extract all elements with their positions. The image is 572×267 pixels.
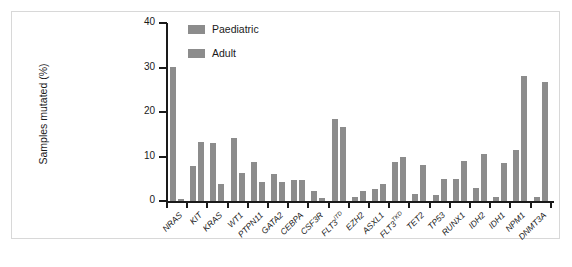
bar-paediatric-kit: [190, 166, 196, 201]
bar-adult-asxl1: [380, 184, 386, 201]
bar-group: [392, 23, 407, 201]
bar-paediatric-npm1: [513, 150, 519, 201]
bar-group: [311, 23, 326, 201]
y-axis-title: Samples mutated (%): [37, 39, 49, 189]
legend-item: Paediatric: [188, 20, 259, 38]
bar-group: [372, 23, 387, 201]
bar-paediatric-dnmt3a: [534, 197, 540, 201]
y-axis-tick-label-wrap: 10: [113, 151, 155, 161]
bar-paediatric-ezh2: [352, 197, 358, 201]
bar-paediatric-idh1: [493, 197, 499, 201]
y-axis-tick-label: 30: [115, 62, 155, 72]
y-axis-tick-label: 10: [115, 151, 155, 161]
bar-paediatric-kras: [210, 143, 216, 201]
bar-group: [433, 23, 448, 201]
bar-adult-gata2: [279, 182, 285, 201]
x-axis-tick: [550, 201, 552, 208]
bar-adult-ezh2: [360, 191, 366, 201]
bar-adult-ptpn11: [259, 182, 265, 201]
y-axis-tick: [159, 156, 167, 158]
bar-paediatric-runx1: [453, 179, 459, 201]
x-axis-tick: [186, 201, 188, 208]
bar-adult-dnmt3a: [542, 82, 548, 201]
bar-adult-kras: [218, 184, 224, 201]
x-axis-tick: [348, 201, 350, 208]
bar-adult-idh2: [481, 154, 487, 201]
x-axis-tick: [408, 201, 410, 208]
bar-paediatric-cebpa: [291, 180, 297, 201]
bar-paediatric-wt1: [231, 138, 237, 201]
bar-paediatric-flt3tkd: [392, 162, 398, 201]
bar-group: [170, 23, 185, 201]
x-axis-tick: [530, 201, 532, 208]
bar-adult-nras: [178, 199, 184, 201]
legend-swatch-icon: [188, 49, 205, 58]
y-axis-tick-label: 40: [115, 17, 155, 27]
bar-adult-idh1: [501, 163, 507, 201]
bar-paediatric-asxl1: [372, 189, 378, 201]
y-axis-tick-label-wrap: 0: [113, 195, 155, 205]
bar-group: [473, 23, 488, 201]
x-axis-line: [166, 201, 554, 203]
x-axis-tick: [449, 201, 451, 208]
bar-group: [291, 23, 306, 201]
x-axis-tick: [166, 201, 168, 208]
y-axis-tick-label: 0: [115, 195, 155, 205]
bar-paediatric-ptpn11: [251, 162, 257, 201]
x-axis-tick: [469, 201, 471, 208]
bar-adult-wt1: [239, 173, 245, 201]
figure-container: Samples mutated (%) 010203040 NRASKITKRA…: [0, 0, 572, 267]
bar-group: [513, 23, 528, 201]
bar-adult-npm1: [521, 76, 527, 201]
x-axis-tick: [368, 201, 370, 208]
bar-adult-tp53: [441, 179, 447, 201]
bar-adult-csf3r: [319, 198, 325, 201]
bar-paediatric-flt3itd: [332, 119, 338, 201]
y-axis-tick: [159, 67, 167, 69]
chart-legend: PaediatricAdult: [188, 20, 259, 68]
bar-group: [352, 23, 367, 201]
x-axis-tick: [429, 201, 431, 208]
legend-label: Adult: [212, 47, 236, 59]
bar-adult-flt3tkd: [400, 157, 406, 202]
y-axis-tick-label-wrap: 20: [113, 106, 155, 116]
bar-chart-plot: Samples mutated (%) 010203040 NRASKITKRA…: [0, 0, 572, 267]
bar-adult-runx1: [461, 161, 467, 201]
bar-paediatric-idh2: [473, 188, 479, 201]
x-axis-tick: [388, 201, 390, 208]
bar-paediatric-csf3r: [311, 191, 317, 201]
bar-group: [493, 23, 508, 201]
bar-paediatric-tp53: [433, 195, 439, 201]
bar-paediatric-nras: [170, 67, 176, 201]
x-axis-tick: [206, 201, 208, 208]
x-axis-tick: [287, 201, 289, 208]
x-axis-tick: [489, 201, 491, 208]
bar-paediatric-gata2: [271, 174, 277, 201]
legend-label: Paediatric: [212, 23, 259, 35]
y-axis-tick: [159, 22, 167, 24]
bar-adult-cebpa: [299, 180, 305, 201]
bar-group: [332, 23, 347, 201]
y-axis-tick-label-wrap: 40: [113, 17, 155, 27]
x-axis-tick: [509, 201, 511, 208]
legend-item: Adult: [188, 44, 259, 62]
legend-swatch-icon: [188, 25, 205, 34]
y-axis-tick: [159, 111, 167, 113]
bar-adult-kit: [198, 142, 204, 201]
x-axis-tick: [328, 201, 330, 208]
bar-paediatric-tet2: [412, 194, 418, 201]
bar-adult-tet2: [420, 165, 426, 201]
bar-adult-flt3itd: [340, 127, 346, 201]
x-axis-tick: [307, 201, 309, 208]
x-axis-tick: [247, 201, 249, 208]
x-axis-tick: [227, 201, 229, 208]
bar-group: [412, 23, 427, 201]
bar-group: [534, 23, 549, 201]
bar-group: [271, 23, 286, 201]
y-axis-tick-label: 20: [115, 106, 155, 116]
x-axis-tick: [267, 201, 269, 208]
bar-group: [453, 23, 468, 201]
y-axis-tick-label-wrap: 30: [113, 62, 155, 72]
